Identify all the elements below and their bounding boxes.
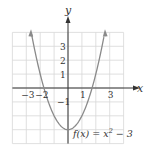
y-tick-label: −1 <box>57 97 70 107</box>
function-label: f(x) = x2 − 3 <box>72 127 133 139</box>
x-tick-label: 3 <box>108 90 114 100</box>
x-tick-label: −3 <box>21 90 35 100</box>
y-tick-label: 1 <box>60 70 66 80</box>
y-tick-label: 2 <box>60 56 66 66</box>
y-axis-arrow-icon <box>66 16 71 23</box>
x-tick-label: 1 <box>80 90 86 100</box>
arrow-left-icon <box>28 29 33 37</box>
y-tick-label: 3 <box>60 42 66 52</box>
x-axis-label: x <box>137 82 144 95</box>
parabola-chart: −3−213321−1 x y f(x) = x2 − 3 <box>0 0 145 155</box>
x-tick-label: −2 <box>35 90 48 100</box>
arrow-right-icon <box>103 29 108 37</box>
y-axis-label: y <box>64 4 72 17</box>
